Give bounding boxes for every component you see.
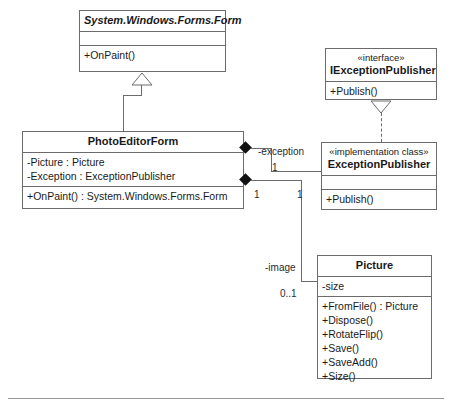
class-header-exceptionpublisher: «implementation class» ExceptionPublishe… xyxy=(322,143,436,176)
class-operations-photoeditorform: +OnPaint() : System.Windows.Forms.Form xyxy=(23,187,243,206)
class-header-photoeditorform: PhotoEditorForm xyxy=(23,132,243,153)
operation-item: +Publish() xyxy=(330,84,432,98)
operation-item: +Size() xyxy=(322,369,427,383)
class-attributes-system-windows-forms-form xyxy=(80,32,225,46)
class-stereotype-exceptionpublisher: «implementation class» xyxy=(326,146,432,158)
composition-image-line-to-class xyxy=(301,281,318,282)
class-box-photoeditorform[interactable]: PhotoEditorForm -Picture : Picture -Exce… xyxy=(22,131,244,209)
class-box-exceptionpublisher[interactable]: «implementation class» ExceptionPublishe… xyxy=(321,142,437,210)
edge-label-image-multiplicity-source: 1 xyxy=(254,189,260,201)
operation-item: +Publish() xyxy=(326,192,432,206)
class-attributes-photoeditorform: -Picture : Picture -Exception : Exceptio… xyxy=(23,153,243,187)
attribute-item: -Exception : ExceptionPublisher xyxy=(27,169,239,183)
composition-exception-line-to-class xyxy=(271,171,322,172)
operation-item: +SaveAdd() xyxy=(322,355,427,369)
edge-label-exception-multiplicity: 1 xyxy=(272,162,278,174)
class-header-picture: Picture xyxy=(318,256,431,277)
class-name-picture: Picture xyxy=(322,259,427,272)
operation-item: +FromFile() : Picture xyxy=(322,299,427,313)
realization-arrowhead xyxy=(370,100,392,114)
class-box-iexceptionpublisher[interactable]: «interface» IExceptionPublisher +Publish… xyxy=(325,48,437,100)
class-name-exceptionpublisher: ExceptionPublisher xyxy=(326,158,432,171)
class-name-iexceptionpublisher: IExceptionPublisher xyxy=(330,64,432,77)
edge-label-image-multiplicity-mid: 1 xyxy=(297,189,303,201)
footer-divider xyxy=(8,398,444,399)
class-operations-picture: +FromFile() : Picture +Dispose() +Rotate… xyxy=(318,297,431,386)
class-box-system-windows-forms-form[interactable]: System.Windows.Forms.Form +OnPaint() xyxy=(79,10,226,72)
attribute-item: -size xyxy=(322,279,427,293)
class-attributes-exceptionpublisher xyxy=(322,176,436,190)
edge-label-image-multiplicity-target: 0..1 xyxy=(280,288,297,300)
class-operations-iexceptionpublisher: +Publish() xyxy=(326,82,436,101)
operation-item: +Save() xyxy=(322,341,427,355)
operation-item: +OnPaint() xyxy=(84,48,221,62)
class-box-picture[interactable]: Picture -size +FromFile() : Picture +Dis… xyxy=(317,255,432,379)
edge-label-exception-role: -exception xyxy=(258,146,304,158)
uml-class-diagram: System.Windows.Forms.Form +OnPaint() Pho… xyxy=(0,0,451,408)
edge-label-image-role: -image xyxy=(265,262,296,274)
generalization-line-horizontal xyxy=(123,95,142,96)
class-name-photoeditorform: PhotoEditorForm xyxy=(27,135,239,148)
generalization-line-vertical-lower xyxy=(123,95,124,131)
operation-item: +OnPaint() : System.Windows.Forms.Form xyxy=(27,189,239,203)
attribute-item: -Picture : Picture xyxy=(27,155,239,169)
class-attributes-picture: -size xyxy=(318,277,431,297)
composition-image-line-horizontal xyxy=(251,180,301,181)
class-name-system-windows-forms-form: System.Windows.Forms.Form xyxy=(84,14,221,27)
realization-line-dashed xyxy=(381,113,382,142)
generalization-arrowhead xyxy=(131,72,153,86)
class-stereotype-iexceptionpublisher: «interface» xyxy=(330,52,432,64)
class-header-system-windows-forms-form: System.Windows.Forms.Form xyxy=(80,11,225,32)
class-header-iexceptionpublisher: «interface» IExceptionPublisher xyxy=(326,49,436,82)
class-operations-exceptionpublisher: +Publish() xyxy=(322,190,436,209)
class-operations-system-windows-forms-form: +OnPaint() xyxy=(80,46,225,65)
operation-item: +Dispose() xyxy=(322,313,427,327)
operation-item: +RotateFlip() xyxy=(322,327,427,341)
